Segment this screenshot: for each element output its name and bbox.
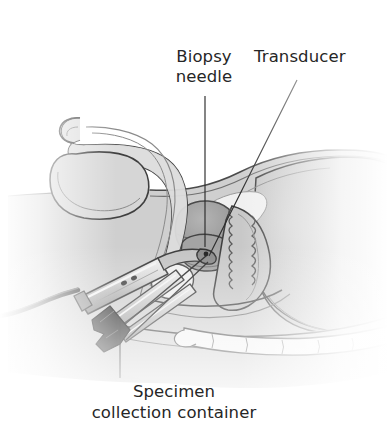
label-specimen-collection-container: Specimen collection container — [0, 382, 348, 424]
label-biopsy-needle: Biopsy needle — [156, 47, 252, 87]
label-transducer: Transducer — [254, 47, 382, 67]
